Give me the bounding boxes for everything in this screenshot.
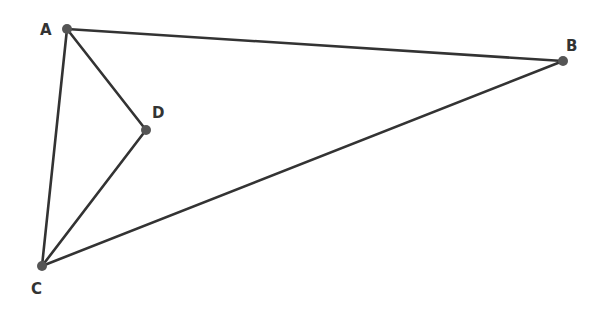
geometry-diagram: ABCD [0,0,607,311]
point-c [37,261,47,271]
point-b [558,56,568,66]
segments [42,29,563,266]
point-label-b: B [566,37,577,55]
point-d [141,125,151,135]
segment-ca [42,29,67,266]
point-label-a: A [40,21,52,39]
points [37,24,568,271]
point-label-d: D [152,104,164,122]
labels: ABCD [31,21,577,298]
segment-ab [67,29,563,61]
point-a [62,24,72,34]
segment-ad [67,29,146,130]
point-label-c: C [31,280,42,298]
